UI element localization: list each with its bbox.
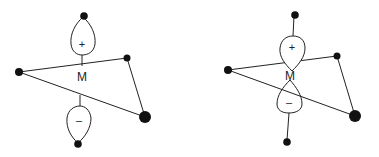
- top-atom: [291, 11, 299, 19]
- bond-top-right-to-bottom-right: [127, 58, 145, 117]
- minus-sign: –: [76, 114, 83, 126]
- bottom-atom: [283, 138, 291, 146]
- plus-sign: +: [289, 41, 295, 53]
- left-diagram: + M –: [15, 12, 151, 148]
- bond-top-right-to-bottom-right: [337, 56, 355, 116]
- right-diagram: + M –: [224, 11, 361, 146]
- bottom-right-atom: [139, 111, 151, 123]
- bond-left-to-top-right: [19, 58, 127, 72]
- minus-sign: –: [286, 96, 293, 108]
- top-atom: [80, 12, 88, 20]
- lower-stem: [287, 113, 289, 140]
- upper-stem: [293, 16, 294, 36]
- bottom-atom: [74, 140, 82, 148]
- top-right-atom: [334, 53, 341, 60]
- top-right-atom: [124, 55, 131, 62]
- metal-label: M: [77, 70, 87, 84]
- bottom-right-atom: [349, 110, 361, 122]
- left-atom: [15, 68, 23, 76]
- plus-sign: +: [79, 38, 85, 50]
- orbital-diagram-canvas: + M – + M –: [0, 0, 379, 157]
- left-atom: [224, 66, 232, 74]
